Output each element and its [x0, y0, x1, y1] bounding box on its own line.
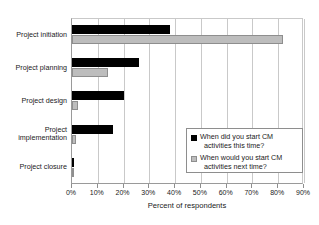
bar-series-2 — [72, 135, 76, 144]
x-axis-tick — [174, 184, 175, 188]
legend-label-series-1-line2: activities this time? — [200, 142, 299, 151]
bar-group — [72, 19, 302, 52]
legend-swatch-icon-series-2 — [191, 156, 197, 162]
legend-entry-series-2: When would you start CM activities next … — [191, 154, 299, 171]
bar-series-2 — [72, 68, 108, 77]
x-axis-tick-label: 90% — [288, 189, 318, 196]
category-label: Project closure — [1, 163, 67, 171]
x-axis-tick — [123, 184, 124, 188]
gridline — [304, 19, 305, 183]
category-label: Project planning — [1, 64, 67, 72]
x-axis-tick — [277, 184, 278, 188]
bar-group — [72, 52, 302, 85]
legend-swatch-icon-series-1 — [191, 135, 197, 141]
bar-series-1 — [72, 91, 124, 100]
x-axis-title: Percent of respondents — [71, 201, 303, 210]
x-axis-tick — [251, 184, 252, 188]
legend-label-series-1-line1: When did you start CM — [200, 132, 273, 141]
bar-group — [72, 85, 302, 118]
category-label: Project initiation — [1, 31, 67, 39]
category-label: Project implementation — [1, 126, 67, 143]
x-axis-tick — [303, 184, 304, 188]
bar-series-2 — [72, 101, 78, 110]
bar-series-2 — [72, 35, 283, 44]
chart-legend: When did you start CM activities this ti… — [186, 128, 303, 173]
x-axis-tick — [226, 184, 227, 188]
category-label: Project design — [1, 97, 67, 105]
x-axis-tick — [97, 184, 98, 188]
legend-entry-series-1: When did you start CM activities this ti… — [191, 133, 299, 150]
bar-series-2 — [72, 168, 74, 177]
bar-series-1 — [72, 58, 139, 67]
bar-series-1 — [72, 125, 113, 134]
legend-label-series-2-line1: When would you start CM — [200, 153, 282, 162]
x-axis-tick — [71, 184, 72, 188]
bar-series-1 — [72, 25, 170, 34]
x-axis-tick — [200, 184, 201, 188]
bar-series-1 — [72, 158, 74, 167]
bar-chart: Project initiationProject planningProjec… — [0, 0, 319, 225]
x-axis-tick — [148, 184, 149, 188]
legend-label-series-2-line2: activities next time? — [200, 163, 299, 172]
